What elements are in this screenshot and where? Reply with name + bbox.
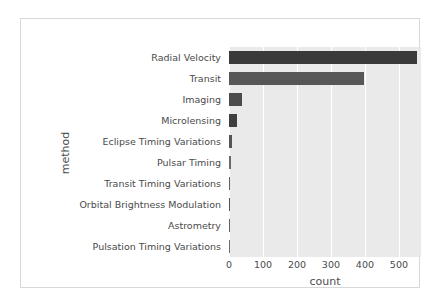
x-tick-label: 300 (322, 259, 340, 270)
bar-radial-velocity (229, 51, 417, 64)
bar-row (229, 131, 421, 152)
bar-row (229, 89, 421, 110)
x-tick-label: 400 (356, 259, 374, 270)
y-tick-label: Pulsar Timing (61, 152, 225, 173)
y-tick-label: Imaging (61, 89, 225, 110)
x-tick-label: 500 (390, 259, 408, 270)
bar-eclipse-timing-variations (229, 135, 232, 148)
bar-pulsar-timing (229, 156, 231, 169)
bar-row (229, 236, 421, 257)
x-axis-tick-labels: 0100200300400500 (229, 259, 421, 273)
x-tick-label: 0 (226, 259, 232, 270)
x-tick-label: 200 (288, 259, 306, 270)
y-tick-label: Orbital Brightness Modulation (61, 194, 225, 215)
plot-area (229, 47, 421, 257)
y-tick-label: Transit (61, 68, 225, 89)
bar-row (229, 47, 421, 68)
x-tick-label: 100 (254, 259, 272, 270)
bar-row (229, 173, 421, 194)
bar-imaging (229, 93, 242, 106)
y-tick-label: Astrometry (61, 215, 225, 236)
bar-row (229, 152, 421, 173)
y-tick-label: Eclipse Timing Variations (61, 131, 225, 152)
bar-pulsation-timing-variations (229, 240, 230, 253)
bar-astrometry (229, 219, 230, 232)
figure-panel: method Radial Velocity Transit Imaging M… (20, 18, 420, 288)
y-tick-label: Microlensing (61, 110, 225, 131)
y-tick-label: Transit Timing Variations (61, 173, 225, 194)
bar-transit (229, 72, 364, 85)
bar-row (229, 194, 421, 215)
bar-microlensing (229, 114, 237, 127)
y-axis-tick-labels: Radial Velocity Transit Imaging Microlen… (61, 47, 225, 257)
bar-orbital-brightness-modulation (229, 198, 230, 211)
bar-transit-timing-variations (229, 177, 230, 190)
bar-series (229, 47, 421, 257)
y-tick-label: Pulsation Timing Variations (61, 236, 225, 257)
bar-row (229, 215, 421, 236)
bar-row (229, 110, 421, 131)
bar-row (229, 68, 421, 89)
y-tick-label: Radial Velocity (61, 47, 225, 68)
x-axis-label: count (229, 275, 421, 288)
